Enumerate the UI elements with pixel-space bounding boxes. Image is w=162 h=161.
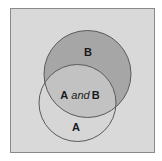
intersection-label-right: B: [92, 89, 100, 101]
intersection-label: AandB: [60, 89, 99, 101]
venn-diagram: B AandB A: [0, 0, 162, 161]
intersection-label-connector: and: [71, 89, 90, 101]
set-a-label: A: [72, 121, 80, 133]
intersection-label-left: A: [60, 89, 68, 101]
set-b-label: B: [84, 46, 92, 58]
